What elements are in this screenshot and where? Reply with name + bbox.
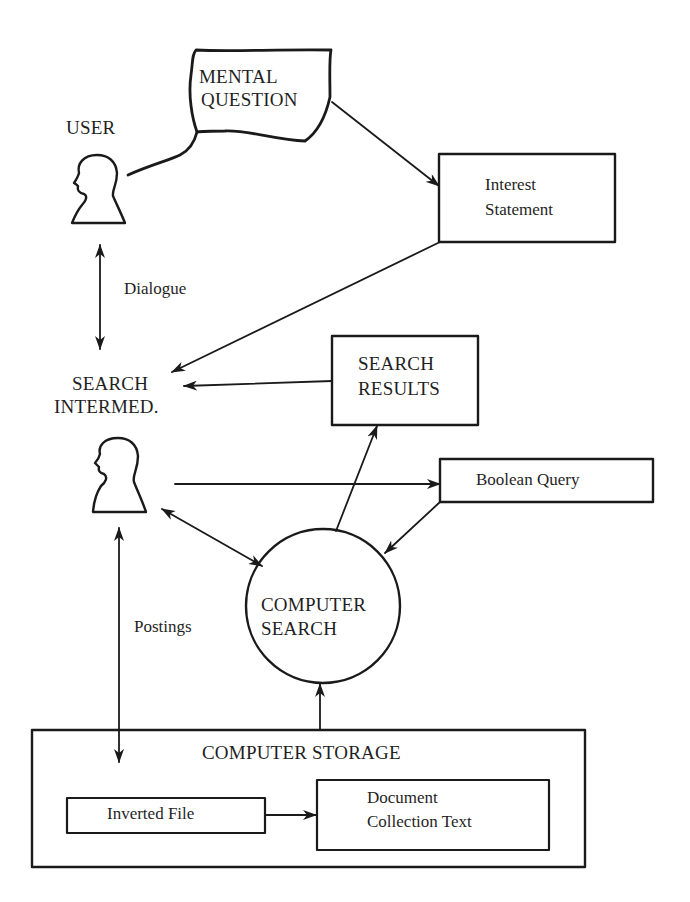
arrow-question-to-interest	[332, 102, 439, 186]
search-results-label-line2: RESULTS	[358, 378, 440, 400]
interest-statement-box	[439, 154, 615, 242]
postings-label: Postings	[134, 617, 192, 637]
interest-statement-label-line1: Interest	[485, 175, 536, 195]
document-collection-label-line1: Document	[367, 788, 438, 808]
search-intermediary-label-line1: SEARCH	[72, 373, 148, 395]
inverted-file-label: Inverted File	[107, 804, 194, 824]
arrow-intermediary-computer-search	[162, 509, 262, 566]
mental-question-label-line2: QUESTION	[201, 89, 298, 111]
computer-storage-label: COMPUTER STORAGE	[202, 742, 401, 764]
computer-search-label-line1: COMPUTER	[261, 594, 366, 616]
user-label: USER	[66, 117, 115, 139]
boolean-query-label: Boolean Query	[476, 470, 579, 490]
document-collection-label-line2: Collection Text	[367, 812, 472, 832]
search-intermediary-person-icon	[93, 438, 146, 512]
mental-question-label-line1: MENTAL	[199, 66, 278, 88]
interest-statement-label-line2: Statement	[485, 200, 553, 220]
computer-search-label-line2: SEARCH	[261, 618, 337, 640]
search-intermediary-label-line2: INTERMED.	[54, 396, 159, 418]
user-person-icon	[72, 155, 125, 223]
arrow-results-to-intermediary	[184, 381, 332, 386]
search-results-label-line1: SEARCH	[358, 353, 434, 375]
arrow-computer-search-to-results	[336, 426, 377, 531]
arrow-boolean-to-computer-search	[385, 502, 440, 553]
dialogue-label: Dialogue	[124, 279, 186, 299]
thought-tail-connector	[128, 132, 197, 175]
